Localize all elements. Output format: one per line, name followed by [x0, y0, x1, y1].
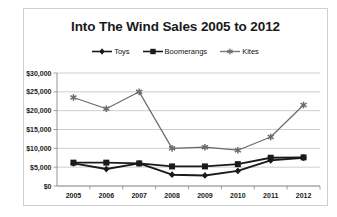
- legend-marker-diamond-icon: [92, 47, 112, 56]
- legend-marker-asterisk-icon: [220, 47, 240, 56]
- legend-label-toys: Toys: [114, 47, 129, 56]
- chart-legend: Toys Boomerangs Kites: [24, 47, 327, 56]
- legend-item-boomerangs[interactable]: Boomerangs: [143, 47, 208, 56]
- chart-title: Into The Wind Sales 2005 to 2012: [24, 19, 327, 34]
- legend-item-kites[interactable]: Kites: [220, 47, 259, 56]
- legend-label-boomerangs: Boomerangs: [165, 47, 208, 56]
- legend-label-kites: Kites: [242, 47, 259, 56]
- chart-container: Into The Wind Sales 2005 to 2012 Toys Bo…: [23, 8, 328, 206]
- legend-marker-square-icon: [143, 47, 163, 56]
- legend-item-toys[interactable]: Toys: [92, 47, 129, 56]
